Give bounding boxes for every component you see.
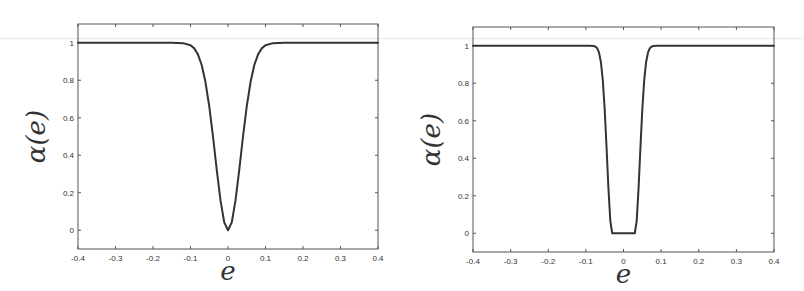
figure: -0.4-0.3-0.2-0.100.10.20.30.400.20.40.60… bbox=[0, 0, 804, 291]
x-tick-label: 0.2 bbox=[297, 254, 309, 263]
y-tick-label: 0 bbox=[70, 226, 75, 235]
axes-box bbox=[78, 24, 378, 249]
x-tick-label: 0.1 bbox=[260, 254, 272, 263]
x-tick-label: -0.1 bbox=[184, 254, 198, 263]
y-tick-label: 1 bbox=[465, 42, 470, 51]
x-tick-label: 0.4 bbox=[768, 257, 780, 266]
x-tick-label: 0.3 bbox=[335, 254, 347, 263]
x-tick-label: -0.3 bbox=[504, 257, 518, 266]
x-tick-label: 0.1 bbox=[656, 257, 668, 266]
x-tick-label: -0.2 bbox=[146, 254, 160, 263]
y-tick-label: 0.6 bbox=[63, 114, 75, 123]
x-axis-label: e bbox=[616, 259, 631, 289]
x-tick-label: -0.4 bbox=[71, 254, 85, 263]
x-tick-label: -0.3 bbox=[109, 254, 123, 263]
right-chart: -0.4-0.3-0.2-0.100.10.20.30.400.20.40.60… bbox=[416, 27, 780, 289]
y-tick-label: 0.4 bbox=[458, 154, 470, 163]
y-tick-label: 0.2 bbox=[458, 192, 470, 201]
y-tick-label: 0.2 bbox=[63, 189, 75, 198]
y-tick-label: 1 bbox=[70, 39, 75, 48]
x-tick-label: 0.4 bbox=[372, 254, 384, 263]
y-axis-label: α(e) bbox=[21, 110, 51, 163]
x-tick-label: -0.4 bbox=[466, 257, 480, 266]
x-tick-label: -0.1 bbox=[579, 257, 593, 266]
alpha-curve bbox=[473, 46, 774, 234]
left-chart: -0.4-0.3-0.2-0.100.10.20.30.400.20.40.60… bbox=[21, 24, 384, 286]
x-tick-label: 0.2 bbox=[693, 257, 705, 266]
x-axis-label: e bbox=[220, 256, 235, 286]
x-tick-label: 0.3 bbox=[731, 257, 743, 266]
y-tick-label: 0 bbox=[465, 229, 470, 238]
alpha-curve bbox=[78, 43, 378, 231]
x-tick-label: -0.2 bbox=[541, 257, 555, 266]
y-axis-label: α(e) bbox=[416, 113, 446, 166]
y-tick-label: 0.8 bbox=[63, 76, 75, 85]
y-tick-label: 0.4 bbox=[63, 151, 75, 160]
y-tick-label: 0.6 bbox=[458, 117, 470, 126]
y-tick-label: 0.8 bbox=[458, 79, 470, 88]
axes-box bbox=[473, 27, 774, 252]
